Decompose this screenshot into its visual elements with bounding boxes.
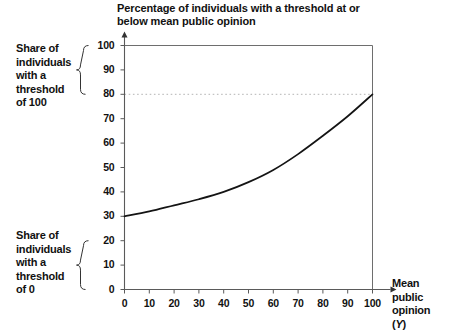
x-axis-arrow <box>391 287 397 293</box>
brace-bottom <box>77 241 89 290</box>
y-tick-label-40: 40 <box>93 185 115 197</box>
y-tick-label-60: 60 <box>93 136 115 148</box>
x-tick-label-10: 10 <box>138 297 160 309</box>
y-tick-label-100: 100 <box>93 39 115 51</box>
x-tick-label-100: 100 <box>362 297 384 309</box>
y-tick-label-10: 10 <box>93 258 115 270</box>
x-tick-label-30: 30 <box>188 297 210 309</box>
reference-lines <box>125 46 373 290</box>
y-tick-label-30: 30 <box>93 209 115 221</box>
x-tick-label-60: 60 <box>262 297 284 309</box>
x-tick-label-90: 90 <box>337 297 359 309</box>
y-tick-label-50: 50 <box>93 161 115 173</box>
brace-group <box>77 46 89 290</box>
axis-ticks <box>121 46 373 294</box>
data-curve <box>125 94 373 216</box>
y-tick-label-80: 80 <box>93 87 115 99</box>
x-tick-label-70: 70 <box>287 297 309 309</box>
x-tick-label-40: 40 <box>213 297 235 309</box>
x-tick-label-50: 50 <box>238 297 260 309</box>
x-tick-label-20: 20 <box>163 297 185 309</box>
y-tick-label-90: 90 <box>93 63 115 75</box>
brace-top <box>77 46 89 95</box>
y-tick-label-70: 70 <box>93 112 115 124</box>
y-tick-label-20: 20 <box>93 234 115 246</box>
y-axis-arrow <box>122 32 128 38</box>
x-tick-label-80: 80 <box>312 297 334 309</box>
y-tick-label-0: 0 <box>93 283 115 295</box>
x-tick-label-0: 0 <box>114 297 136 309</box>
